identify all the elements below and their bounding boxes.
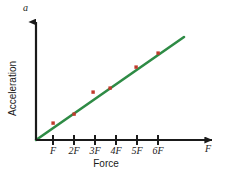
- x-axis-title: Force: [78, 158, 134, 169]
- data-point-2: [72, 112, 75, 115]
- physics-force-acceleration-chart: a F 2F 3F 4F 5F 6F F Force Acceleration: [0, 0, 227, 177]
- y-axis-symbol-label: a: [23, 2, 28, 13]
- y-axis-title: Acceleration: [7, 53, 18, 125]
- data-point-5: [134, 65, 137, 68]
- data-point-6: [156, 51, 159, 54]
- data-point-1: [51, 121, 54, 124]
- data-point-4: [108, 86, 111, 89]
- data-point-3: [91, 90, 94, 93]
- x-tick-label-6: 6F: [146, 145, 170, 156]
- x-axis-symbol-label: F: [205, 143, 211, 154]
